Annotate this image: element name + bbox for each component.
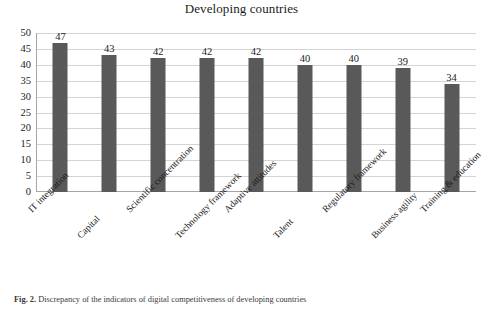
bar[interactable] <box>200 58 215 192</box>
figure-caption: Fig. 2. Discrepancy of the indicators of… <box>14 294 476 311</box>
y-axis-tick-label: 45 <box>0 44 31 54</box>
bar-value-label: 42 <box>202 46 213 57</box>
bar-value-label: 39 <box>397 56 408 67</box>
bar-group[interactable]: 47 <box>36 33 85 192</box>
x-axis-tick-label: Business agility <box>369 190 420 241</box>
y-axis-tick-label: 5 <box>0 171 31 181</box>
chart-title: Developing countries <box>0 1 483 17</box>
y-axis-tick-label: 15 <box>0 139 31 149</box>
y-axis-tick-label: 0 <box>0 187 31 197</box>
bar-value-label: 40 <box>349 53 360 64</box>
bar[interactable] <box>53 43 68 192</box>
y-axis-tick-label: 35 <box>0 76 31 86</box>
bar-group[interactable]: 39 <box>378 33 427 192</box>
bar-series: 474342424240403934 <box>36 33 476 192</box>
figure-container: Developing countries 5045403530252015105… <box>0 0 483 311</box>
y-axis-tick-label: 25 <box>0 108 31 118</box>
bar-value-label: 34 <box>446 72 457 83</box>
x-axis-tick-label: Capital <box>76 214 103 241</box>
y-axis-tick-label: 40 <box>0 60 31 70</box>
bar-value-label: 43 <box>104 43 115 54</box>
figure-number: Fig. 2. <box>14 295 36 304</box>
figure-caption-text: Discrepancy of the indicators of digital… <box>38 295 306 304</box>
x-axis-tick-label: Talent <box>271 217 295 241</box>
bar-value-label: 42 <box>251 46 262 57</box>
bar-group[interactable]: 43 <box>85 33 134 192</box>
bar-value-label: 42 <box>153 46 164 57</box>
bar-value-label: 47 <box>55 31 66 42</box>
y-axis: 50454035302520151050 <box>0 33 31 192</box>
bar-group[interactable]: 40 <box>280 33 329 192</box>
y-axis-tick-label: 50 <box>0 28 31 38</box>
bar-group[interactable]: 42 <box>183 33 232 192</box>
bar[interactable] <box>297 65 312 192</box>
y-axis-tick-label: 20 <box>0 123 31 133</box>
y-axis-tick-label: 30 <box>0 92 31 102</box>
y-axis-tick-label: 10 <box>0 155 31 165</box>
x-axis-category-labels: IT integrationCapitalScientific concentr… <box>36 192 476 282</box>
bar-value-label: 40 <box>300 53 311 64</box>
bar[interactable] <box>395 68 410 192</box>
bar[interactable] <box>102 55 117 192</box>
